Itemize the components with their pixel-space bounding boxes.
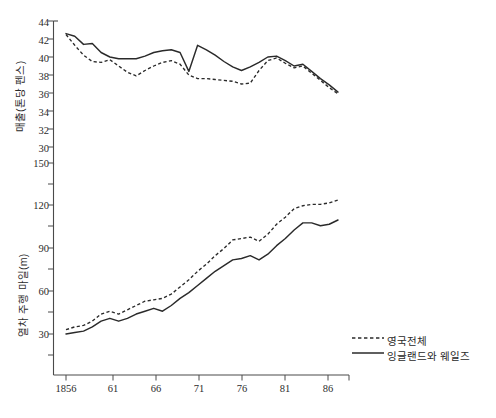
- series-line-england-wales-bottom: [66, 220, 338, 334]
- series-line-uk-total-top: [66, 35, 338, 94]
- series-line-uk-total-bottom: [66, 200, 338, 330]
- x-tick-marks: [66, 375, 349, 381]
- plot-canvas: [0, 0, 496, 418]
- top-panel-series-group: [66, 34, 338, 94]
- bottom-panel-axis: [48, 163, 349, 381]
- bottom-panel-series-group: [66, 200, 338, 334]
- chart-figure: 매출(톤당 펜스) 열차 주행 마일(m) 44 42 40 38 36 34 …: [0, 0, 496, 418]
- top-panel-axis: [48, 21, 58, 165]
- series-line-england-wales-top: [66, 34, 338, 93]
- bottom-y-tick-marks: [48, 163, 54, 355]
- top-y-tick-marks: [48, 21, 54, 147]
- legend: [352, 338, 384, 353]
